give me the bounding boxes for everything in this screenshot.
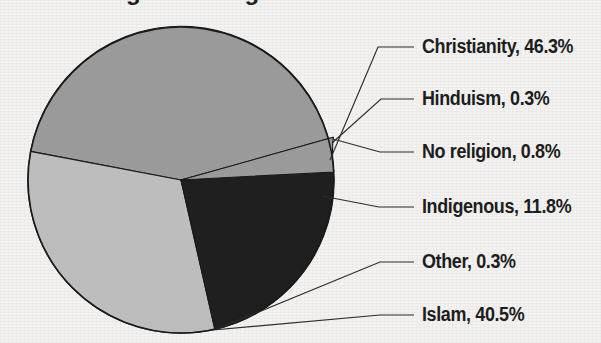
- pie-label-other: Other, 0.3%: [422, 252, 516, 272]
- pie-label-christianity: Christianity, 46.3%: [422, 37, 573, 57]
- leader-line-no-religion: [333, 139, 414, 152]
- pie-label-hinduism: Hinduism, 0.3%: [422, 89, 549, 109]
- pie-label-indigenous: Indigenous, 11.8%: [422, 197, 571, 217]
- leader-line-christianity: [330, 47, 414, 160]
- leader-line-hinduism: [332, 99, 414, 143]
- pie-label-islam: Islam, 40.5%: [422, 305, 524, 325]
- pie-slices: [28, 26, 334, 333]
- pie-label-no-religion: No religion, 0.8%: [422, 142, 560, 162]
- leader-line-indigenous: [322, 196, 414, 207]
